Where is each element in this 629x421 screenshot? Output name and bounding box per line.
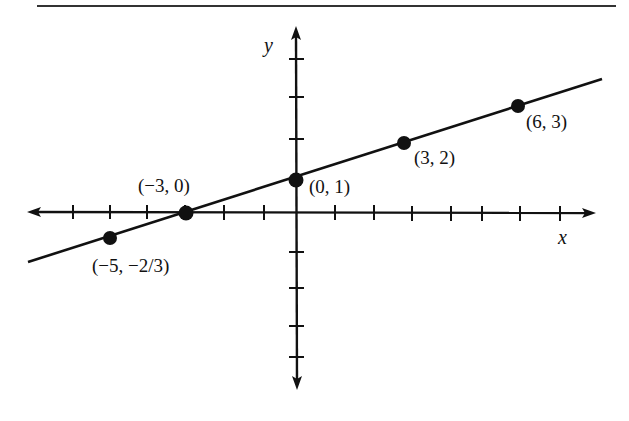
point-0-1 bbox=[289, 173, 304, 188]
label-point-3-2: (3, 2) bbox=[414, 147, 455, 169]
point-3-2 bbox=[397, 136, 411, 150]
label-point-neg5-neg2-3: (−5, −2/3) bbox=[92, 255, 169, 277]
point-neg5-neg2-3 bbox=[103, 231, 117, 245]
coordinate-plane-figure: y x (−5, −2/3) (−3, 0) (0, 1) (3, 2) (6,… bbox=[0, 0, 629, 421]
point-6-3 bbox=[511, 99, 525, 113]
x-axis-label: x bbox=[557, 226, 567, 248]
label-point-0-1: (0, 1) bbox=[309, 176, 350, 198]
point-neg3-0 bbox=[179, 206, 194, 221]
label-point-neg3-0: (−3, 0) bbox=[138, 175, 190, 197]
y-axis-label: y bbox=[262, 34, 273, 57]
label-point-6-3: (6, 3) bbox=[526, 111, 567, 133]
y-axis bbox=[289, 26, 304, 390]
x-axis bbox=[27, 205, 596, 221]
